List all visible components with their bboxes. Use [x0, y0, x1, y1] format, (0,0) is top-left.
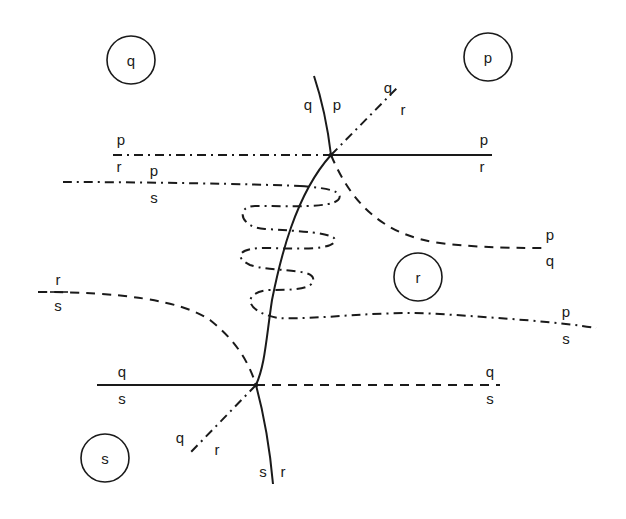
- region-r: r: [394, 253, 442, 301]
- region-q: q: [107, 36, 155, 84]
- phase-diagram: q p r s q p q r p r p r p s p q r s: [0, 0, 626, 519]
- region-r-label: r: [416, 269, 421, 286]
- metastable-spiral: [240, 186, 596, 328]
- upper-diag-bottom-label: r: [401, 101, 406, 118]
- rs-den-label: s: [54, 297, 62, 314]
- upper-diag-top-label: q: [384, 79, 392, 96]
- lower-diag-top-label: q: [176, 429, 184, 446]
- qs-right-den-label: s: [486, 390, 494, 407]
- pq-den-label: q: [546, 252, 554, 269]
- qr-diagonal-lower: [190, 385, 256, 453]
- pq-num-label: p: [546, 226, 554, 243]
- region-s-label: s: [101, 450, 109, 467]
- qp-boundary-curve: [314, 76, 331, 155]
- qs-left-num-label: q: [118, 363, 126, 380]
- region-p: p: [464, 33, 512, 81]
- pr-right-den-label: r: [480, 158, 485, 175]
- rs-num-label: r: [56, 271, 61, 288]
- lower-curve-right-label: r: [281, 463, 286, 480]
- phase-diagram-svg: q p r s q p q r p r p r p s p q r s: [0, 0, 626, 519]
- qs-left-den-label: s: [118, 390, 126, 407]
- region-q-label: q: [127, 52, 135, 69]
- ps-lower-num-label: p: [562, 303, 570, 320]
- ps-lower-den-label: s: [562, 330, 570, 347]
- region-s: s: [81, 434, 129, 482]
- upper-curve-right-label: p: [333, 96, 341, 113]
- lower-triple-point: [254, 383, 258, 387]
- region-p-label: p: [484, 49, 492, 66]
- rs-metastable-curve: [38, 292, 256, 385]
- qs-right-num-label: q: [486, 363, 494, 380]
- ps-metastable-upper: [63, 182, 300, 186]
- pq-metastable-curve: [331, 155, 548, 248]
- pr-right-num-label: p: [480, 131, 488, 148]
- lower-diag-bottom-label: r: [215, 441, 220, 458]
- upper-curve-left-label: q: [304, 96, 312, 113]
- lower-curve-left-label: s: [259, 463, 267, 480]
- upper-triple-point: [329, 153, 333, 157]
- pr-left-den-label: r: [117, 158, 122, 175]
- ps-upper-den-label: s: [150, 189, 158, 206]
- ps-upper-num-label: p: [150, 162, 158, 179]
- pr-left-num-label: p: [117, 131, 125, 148]
